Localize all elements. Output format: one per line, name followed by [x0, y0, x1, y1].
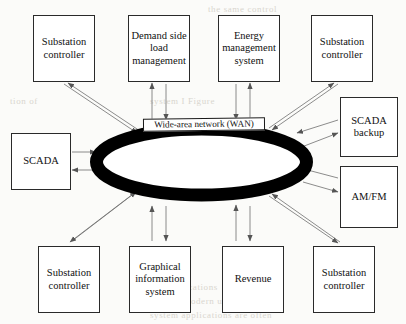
node-label-revenue: Revenue	[225, 273, 281, 285]
arrow-wan-to-scadabk	[299, 133, 338, 148]
node-label-substation-controller-bottom-left: Substation controller	[41, 267, 97, 292]
node-substation-controller-bottom-right[interactable]: Substation controller	[313, 246, 375, 313]
arrow-wan-to-sctl-tl	[68, 83, 140, 131]
node-revenue[interactable]: Revenue	[222, 246, 284, 313]
arrow-wan-to-sctl-br	[269, 196, 338, 243]
node-substation-controller-top-left[interactable]: Substation controller	[33, 15, 95, 82]
node-label-am-fm: AM/FM	[343, 191, 395, 203]
node-label-graphical-information-system: Graphical information system	[132, 261, 188, 298]
node-am-fm[interactable]: AM/FM	[340, 166, 398, 228]
arrow-scadabk-to-wan	[297, 120, 338, 133]
wide-area-network-ellipse	[97, 129, 307, 195]
node-label-scada-backup: SCADA backup	[343, 115, 395, 140]
arrow-wan-to-sctl-bl	[70, 194, 133, 242]
node-scada-backup[interactable]: SCADA backup	[340, 97, 398, 157]
arrow-sctl-tl-to-wan	[64, 84, 137, 133]
wan-architecture-diagram: the same controltion ofsystem I Figureda…	[0, 0, 406, 324]
arrow-wan-to-sctl-tr	[269, 83, 334, 128]
node-label-substation-controller-top-left: Substation controller	[36, 36, 92, 61]
arrow-wan-to-amfm	[303, 182, 338, 192]
arrow-sctl-br-to-wan	[272, 194, 340, 242]
node-label-demand-side-load-management: Demand side load management	[131, 30, 187, 67]
wide-area-network-label: Wide-area network (WAN)	[143, 117, 265, 131]
node-demand-side-load-management[interactable]: Demand side load management	[128, 15, 190, 82]
node-substation-controller-bottom-left[interactable]: Substation controller	[38, 246, 100, 313]
node-substation-controller-top-right[interactable]: Substation controller	[311, 15, 373, 82]
node-energy-management-system[interactable]: Energy management system	[218, 15, 280, 82]
node-label-scada: SCADA	[14, 155, 68, 167]
node-scada[interactable]: SCADA	[11, 133, 71, 190]
node-label-substation-controller-bottom-right: Substation controller	[316, 267, 372, 292]
node-graphical-information-system[interactable]: Graphical information system	[129, 246, 191, 313]
node-label-substation-controller-top-right: Substation controller	[314, 36, 370, 61]
node-label-energy-management-system: Energy management system	[221, 30, 277, 67]
